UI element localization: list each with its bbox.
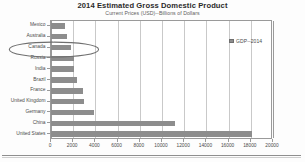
- y-label-france: France: [30, 87, 45, 92]
- x-tick-mark-14000: [205, 139, 206, 142]
- x-tick-label-12000: 12000: [177, 143, 190, 148]
- bar-india: [51, 66, 74, 71]
- y-label-russia: Russia: [31, 55, 46, 60]
- bar-canada: [51, 45, 71, 50]
- x-tick-mark-16000: [228, 139, 229, 142]
- legend-label-gdp-2014: GDP--2014: [236, 38, 262, 44]
- x-tick-label-2000: 2000: [67, 143, 78, 148]
- chart-title: 2014 Estimated Gross Domestic Product: [0, 1, 305, 10]
- x-tick-mark-8000: [139, 139, 140, 142]
- x-tick-mark-2000: [72, 139, 73, 142]
- x-tick-mark-12000: [183, 139, 184, 142]
- y-label-australia: Australia: [26, 33, 45, 38]
- y-label-canada: Canada: [28, 44, 45, 49]
- bar-russia: [51, 56, 74, 61]
- bar-united-states: [51, 131, 252, 136]
- y-axis-category-labels: MexicoAustraliaCanadaRussiaIndiaBrazilFr…: [0, 20, 50, 139]
- x-tick-mark-10000: [161, 139, 162, 142]
- bar-brazil: [51, 77, 77, 82]
- bar-germany: [51, 110, 94, 115]
- bar-mexico: [51, 23, 65, 28]
- footer-rule-shadow: [2, 157, 301, 158]
- y-label-united-states: United States: [16, 131, 45, 136]
- y-label-united-kingdom: United Kingdom: [11, 98, 46, 103]
- x-tick-label-8000: 8000: [133, 143, 144, 148]
- y-label-china: China: [33, 120, 46, 125]
- x-tick-mark-6000: [117, 139, 118, 142]
- x-tick-label-14000: 14000: [199, 143, 212, 148]
- x-tick-label-0: 0: [49, 143, 52, 148]
- chart-subtitle: Current Prices (USD)--Billions of Dollar…: [0, 10, 305, 16]
- legend-swatch-gdp-2014: [229, 39, 234, 44]
- x-tick-label-16000: 16000: [221, 143, 234, 148]
- y-label-mexico: Mexico: [30, 22, 46, 27]
- legend: GDP--2014: [229, 38, 262, 44]
- footer-rule: [2, 155, 301, 156]
- y-label-germany: Germany: [25, 109, 45, 114]
- bar-australia: [51, 34, 67, 39]
- x-tick-mark-20000: [272, 139, 273, 142]
- gridline-20000: [273, 21, 274, 138]
- y-label-brazil: Brazil: [33, 77, 45, 82]
- x-tick-label-10000: 10000: [154, 143, 167, 148]
- x-tick-label-4000: 4000: [89, 143, 100, 148]
- x-tick-mark-4000: [94, 139, 95, 142]
- bar-china: [51, 121, 175, 126]
- chart-screenshot: 2014 Estimated Gross Domestic Product Cu…: [0, 0, 305, 162]
- x-tick-label-18000: 18000: [243, 143, 256, 148]
- bar-united-kingdom: [51, 99, 84, 104]
- x-tick-label-6000: 6000: [111, 143, 122, 148]
- x-tick-mark-0: [50, 139, 51, 142]
- y-label-india: India: [35, 66, 46, 71]
- x-tick-mark-18000: [250, 139, 251, 142]
- x-axis-ticks: 0200040006000800010000120001400016000180…: [50, 139, 272, 153]
- x-tick-label-20000: 20000: [265, 143, 278, 148]
- bar-france: [51, 88, 83, 93]
